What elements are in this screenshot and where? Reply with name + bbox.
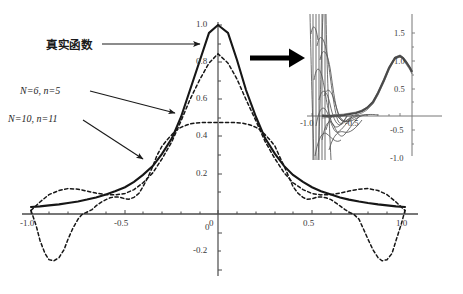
main-ytick-6: -0.2 (193, 245, 207, 255)
inset-ytick-1: 1.0 (394, 56, 405, 66)
main-ytick-1: 0.8 (196, 56, 207, 66)
main-xtick-1: -0.5 (114, 218, 128, 228)
main-ytick-3: 0.4 (196, 130, 207, 140)
inset-xtick-1: -0.5 (345, 118, 358, 128)
main-y-axis (218, 22, 222, 276)
main-xtick-3: 0.5 (303, 218, 314, 228)
inset-ytick-0: 1.5 (394, 28, 405, 38)
main-ytick-2: 0.6 (196, 93, 207, 103)
main-ytick-0: 1.0 (196, 19, 207, 29)
inset-ytick-3: -0.5 (390, 125, 403, 135)
main-xtick-0: -1.0 (20, 218, 34, 228)
series-n10-n11-label: N=10, n=11 (8, 113, 57, 124)
inset-ytick-4: -1.0 (390, 153, 403, 163)
leader-n10-n11 (83, 120, 143, 159)
main-xtick-4: 1.0 (396, 218, 407, 228)
main-ytick-4: 0.2 (196, 168, 207, 178)
main-ytick-5: 0 (205, 222, 210, 232)
inset-xtick-0: -1.0 (300, 118, 313, 128)
leader-n6-n5 (90, 91, 175, 113)
series-n6-n5-label: N=6, n=5 (20, 85, 60, 96)
figure-root: 真实函数 N=6, n=5 N=10, n=11 -1.0 -0.5 0 0.5… (0, 0, 463, 294)
main-x-axis (22, 210, 418, 214)
inset-divergent-curves (310, 14, 378, 160)
true-function-label: 真实函数 (46, 36, 92, 52)
inset-plot (307, 14, 442, 160)
inset-ytick-2: 0.5 (394, 84, 405, 94)
transition-arrow-icon (250, 49, 305, 68)
